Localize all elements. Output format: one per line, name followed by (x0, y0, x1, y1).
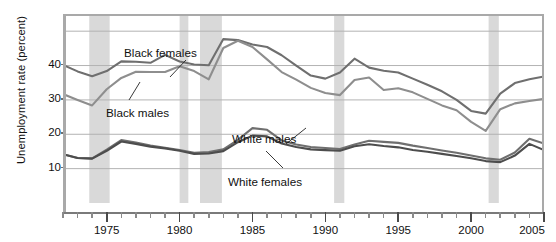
x-tick-major (397, 212, 399, 222)
x-tick-minor (485, 212, 487, 218)
x-tick-minor (150, 212, 152, 218)
x-tick-minor (456, 212, 458, 218)
y-axis-line (63, 14, 66, 212)
x-tick-label: 2000 (458, 224, 484, 236)
x-tick-minor (208, 212, 210, 218)
x-tick-minor (121, 212, 123, 218)
x-tick-minor (427, 212, 429, 218)
x-tick-minor (164, 212, 166, 218)
y-tick-label: 20 (0, 126, 61, 138)
x-tick-minor (266, 212, 268, 218)
x-tick-major (470, 212, 472, 222)
x-tick-label: 1990 (313, 224, 339, 236)
x-tick-minor (295, 212, 297, 218)
x-tick-major (179, 212, 181, 222)
x-tick-label: 1995 (385, 224, 411, 236)
series-line (63, 136, 544, 162)
x-axis-end-cap (542, 203, 545, 212)
x-tick-minor (368, 212, 370, 218)
x-tick-label: 1975 (94, 224, 120, 236)
x-tick-minor (412, 212, 414, 218)
recession-band (334, 14, 344, 203)
x-tick-minor (499, 212, 501, 218)
x-tick-minor (77, 212, 79, 218)
x-tick-minor (310, 212, 312, 218)
series-label-white-males: White males (232, 132, 296, 145)
x-tick-minor (223, 212, 225, 218)
x-tick-minor (354, 212, 356, 218)
x-tick-minor (514, 212, 516, 218)
x-tick-minor (339, 212, 341, 218)
x-tick-minor (193, 212, 195, 218)
series-label-black-females: Black females (124, 46, 197, 59)
x-tick-minor (62, 212, 64, 218)
chart-figure: Unemployment rate (percent) 10203040 197… (0, 0, 556, 242)
y-tick-label: 30 (0, 92, 61, 104)
y-tick-label: 10 (0, 161, 61, 173)
x-tick-minor (281, 212, 283, 218)
series-label-black-males: Black males (106, 106, 169, 119)
x-tick-label: 1980 (167, 224, 193, 236)
recession-band (180, 14, 189, 203)
x-tick-minor (135, 212, 137, 218)
x-tick-minor (529, 212, 531, 218)
x-tick-minor (383, 212, 385, 218)
y-tick-label: 40 (0, 58, 61, 70)
x-tick-label: 2005 (519, 224, 545, 236)
recession-band (200, 14, 222, 203)
x-tick-major (106, 212, 108, 222)
x-tick-minor (237, 212, 239, 218)
x-tick-major (252, 212, 254, 222)
x-tick-major (325, 212, 327, 222)
x-tick-minor (91, 212, 93, 218)
x-tick-minor (441, 212, 443, 218)
series-label-white-females: White females (228, 175, 302, 188)
x-tick-major (543, 212, 545, 222)
x-tick-label: 1985 (240, 224, 266, 236)
